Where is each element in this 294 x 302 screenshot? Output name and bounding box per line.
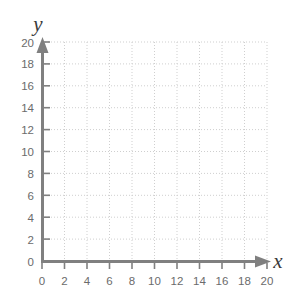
coordinate-grid-figure: 0 2 4 6 8 10 12 14 16 18 20 0 2 4 6 8 10… [0,0,294,302]
y-tick-label-10: 10 [21,146,34,158]
x-tick-label-14: 14 [193,275,206,287]
y-tick-label-14: 14 [21,102,34,114]
graph-canvas: 0 2 4 6 8 10 12 14 16 18 20 0 2 4 6 8 10… [0,0,294,302]
y-tick-label-16: 16 [21,80,34,92]
y-tick-label-18: 18 [21,58,34,70]
x-tick-label-6: 6 [106,275,112,287]
x-tick-label-10: 10 [148,275,161,287]
x-tick-label-18: 18 [238,275,251,287]
y-tick-label-6: 6 [28,190,34,202]
x-tick-label-8: 8 [129,275,135,287]
x-tick-label-4: 4 [84,275,91,287]
y-tick-label-2: 2 [28,234,34,246]
x-tick-label-16: 16 [216,275,229,287]
y-tick-label-0: 0 [28,256,34,268]
x-tick-label-12: 12 [171,275,184,287]
y-tick-label-20: 20 [21,37,34,49]
x-axis-label: x [272,249,283,273]
y-axis-label: y [31,12,43,36]
y-tick-label-12: 12 [21,124,34,136]
x-tick-label-20: 20 [261,275,274,287]
y-tick-label-8: 8 [28,168,34,180]
x-tick-label-0: 0 [39,275,45,287]
x-tick-label-2: 2 [61,275,67,287]
y-tick-label-4: 4 [28,212,35,224]
